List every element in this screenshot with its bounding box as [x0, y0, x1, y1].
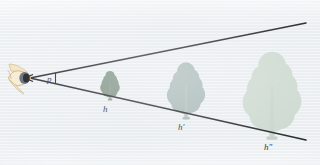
tree-near-base-shadow — [108, 99, 113, 101]
angle-label: p — [46, 74, 52, 84]
tree-far — [243, 52, 302, 140]
eye-icon — [8, 64, 33, 94]
diagram-canvas: p h h′ h″ — [0, 0, 320, 165]
height-label-near: h — [103, 104, 108, 114]
height-label-far: h″ — [264, 142, 273, 152]
tree-middle — [167, 62, 205, 119]
angular-size-figure: p h h′ h″ — [0, 0, 320, 165]
height-label-middle: h′ — [178, 122, 186, 132]
tree-middle-base-shadow — [183, 117, 191, 119]
eye-pupil — [23, 73, 30, 82]
tree-far-base-shadow — [267, 137, 278, 140]
